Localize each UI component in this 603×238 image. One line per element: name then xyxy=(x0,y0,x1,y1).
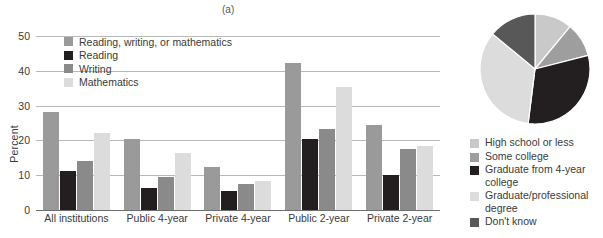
legend-swatch xyxy=(470,192,479,201)
legend-swatch xyxy=(470,139,479,148)
bar xyxy=(238,184,254,210)
bar xyxy=(255,181,271,210)
legend-item: Graduate from 4-year college xyxy=(470,163,603,188)
pie-chart xyxy=(480,14,590,124)
legend-label: Mathematics xyxy=(79,76,139,88)
legend-swatch xyxy=(64,51,73,60)
bar-chart-legend: Reading, writing, or mathematicsReadingW… xyxy=(64,35,232,89)
bar xyxy=(124,139,140,210)
legend-label: High school or less xyxy=(485,136,574,149)
legend-label: Reading xyxy=(79,49,118,61)
bar xyxy=(77,161,93,210)
legend-item: High school or less xyxy=(470,136,603,149)
y-axis-tick-label: 0 xyxy=(24,204,30,216)
legend-label: Graduate/professional degree xyxy=(485,189,603,214)
panel-a-label: (a) xyxy=(222,4,234,15)
legend-item: Reading, writing, or mathematics xyxy=(64,35,232,49)
legend-swatch xyxy=(470,153,479,162)
x-axis-line xyxy=(36,210,440,211)
y-axis-tick-label: 40 xyxy=(18,65,30,77)
y-axis-tick-label: 30 xyxy=(18,100,30,112)
x-axis-category-label: Private 2-year xyxy=(359,212,440,224)
bar xyxy=(336,87,352,210)
y-axis-tick-label: 10 xyxy=(18,169,30,181)
bar xyxy=(158,177,174,210)
bar xyxy=(417,146,433,210)
legend-label: Reading, writing, or mathematics xyxy=(79,36,232,48)
bar xyxy=(141,188,157,210)
legend-item: Writing xyxy=(64,62,232,76)
x-axis-category-label: Private 4-year xyxy=(198,212,279,224)
bar xyxy=(383,175,399,210)
bar xyxy=(319,129,335,210)
bar xyxy=(302,139,318,210)
legend-swatch xyxy=(64,64,73,73)
legend-item: Don't know xyxy=(470,215,603,228)
bar-group: Public 2-year xyxy=(278,36,359,210)
legend-swatch xyxy=(470,166,479,175)
pie-chart-legend: High school or lessSome collegeGraduate … xyxy=(470,136,603,229)
legend-item: Mathematics xyxy=(64,76,232,90)
bar xyxy=(94,133,110,210)
bar xyxy=(366,125,382,210)
legend-item: Some college xyxy=(470,150,603,163)
bar xyxy=(204,167,220,210)
bar-chart-panel: (a) Percent 01020304050 All institutions… xyxy=(0,0,452,238)
bar xyxy=(221,191,237,210)
pie-chart-panel: (b) High school or lessSome collegeGradu… xyxy=(452,0,603,238)
y-axis-tick-label: 20 xyxy=(18,134,30,146)
bar-group: Private 2-year xyxy=(359,36,440,210)
legend-swatch xyxy=(64,78,73,87)
x-axis-category-label: All institutions xyxy=(36,212,117,224)
legend-label: Don't know xyxy=(485,215,537,228)
legend-swatch xyxy=(470,218,479,227)
bar xyxy=(400,149,416,210)
x-axis-category-label: Public 2-year xyxy=(278,212,359,224)
bar xyxy=(60,171,76,210)
legend-item: Graduate/professional degree xyxy=(470,189,603,214)
bar xyxy=(285,63,301,210)
x-axis-category-label: Public 4-year xyxy=(117,212,198,224)
legend-swatch xyxy=(64,37,73,46)
legend-label: Writing xyxy=(79,63,111,75)
legend-label: Graduate from 4-year college xyxy=(485,163,603,188)
legend-label: Some college xyxy=(485,150,549,163)
y-axis-tick-label: 50 xyxy=(18,30,30,42)
pie-svg xyxy=(480,14,590,124)
bar xyxy=(43,112,59,210)
legend-item: Reading xyxy=(64,49,232,63)
bar xyxy=(175,153,191,210)
